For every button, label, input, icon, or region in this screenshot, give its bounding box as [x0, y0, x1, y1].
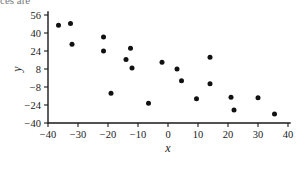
x-tick-label: −40 [40, 129, 56, 140]
x-tick-label: −30 [70, 129, 86, 140]
data-point [68, 21, 73, 26]
data-point [175, 67, 180, 72]
data-point [256, 95, 261, 100]
data-point [124, 57, 129, 62]
x-tick-label: −20 [100, 129, 116, 140]
data-point [56, 23, 61, 28]
data-point [128, 46, 133, 51]
scatter-plot-svg: −40−30−20−10010203040 −40−24−88244056 x … [0, 0, 306, 184]
x-tick-label: 40 [283, 129, 294, 140]
data-point [146, 101, 151, 106]
y-axis-tick-labels: −40−24−88244056 [25, 10, 42, 129]
data-point [229, 95, 234, 100]
y-tick-label: −8 [30, 82, 41, 93]
x-tick-label: 0 [165, 129, 170, 140]
data-point [70, 42, 75, 47]
x-tick-label: 10 [193, 129, 204, 140]
y-tick-label: 56 [31, 10, 42, 21]
y-tick-label: −24 [25, 100, 42, 111]
plot-axes [48, 12, 290, 123]
data-point [272, 112, 277, 117]
y-tick-label: 40 [31, 28, 42, 39]
data-point [208, 55, 213, 60]
x-tick-label: −10 [130, 129, 146, 140]
x-tick-label: 20 [223, 129, 234, 140]
axis-spine [48, 12, 290, 123]
data-point [101, 34, 106, 39]
data-point [232, 108, 237, 113]
scatter-plot-figure: −40−30−20−10010203040 −40−24−88244056 x … [0, 0, 306, 184]
data-point [194, 96, 199, 101]
data-points [56, 21, 277, 117]
y-tick-label: 8 [36, 64, 41, 75]
x-tick-label: 30 [253, 129, 264, 140]
data-point [101, 49, 106, 54]
y-tick-label: −40 [25, 118, 41, 129]
data-point [179, 78, 184, 83]
data-point [130, 65, 135, 70]
data-point [160, 60, 165, 65]
y-tick-label: 24 [31, 46, 42, 57]
x-axis-tick-labels: −40−30−20−10010203040 [40, 129, 293, 140]
y-axis-title: y [10, 66, 24, 73]
data-point [208, 81, 213, 86]
data-point [109, 91, 114, 96]
x-axis-title: x [164, 141, 171, 155]
